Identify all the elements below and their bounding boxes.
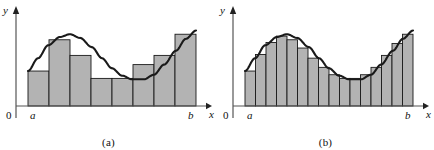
lower-bound-label-a: a: [30, 109, 36, 121]
riemann-rectangle: [133, 65, 154, 106]
upper-bound-label-b: b: [405, 109, 411, 121]
y-axis-label: y: [219, 4, 225, 16]
riemann-rectangle: [49, 40, 70, 106]
origin-label: 0: [6, 109, 12, 121]
x-axis-label: x: [208, 108, 214, 120]
y-axis-label: y: [2, 4, 8, 16]
riemann-rectangle: [340, 78, 351, 106]
riemann-rectangle: [298, 48, 309, 106]
lower-bound-label-a: a: [247, 109, 253, 121]
riemann-rectangle: [350, 78, 361, 106]
riemann-rectangle: [112, 78, 133, 106]
riemann-rectangle: [329, 75, 340, 106]
rectangles-group: [245, 34, 413, 106]
origin-label: 0: [223, 109, 229, 121]
riemann-rectangle: [319, 67, 330, 106]
riemann-rectangle: [91, 78, 112, 106]
panel-b: yx0ab (b): [217, 0, 434, 150]
y-axis-arrowhead-icon: [13, 6, 19, 14]
riemann-rectangle: [245, 71, 256, 106]
riemann-rectangle: [392, 43, 403, 106]
x-axis-label: x: [425, 108, 431, 120]
riemann-rectangle: [403, 34, 414, 106]
riemann-sum-plot-a: yx0ab: [0, 0, 217, 130]
riemann-rectangle: [308, 58, 319, 106]
riemann-rectangle: [154, 55, 175, 106]
riemann-rectangle: [256, 54, 267, 106]
figure-root: yx0ab (a) yx0ab (b): [0, 0, 434, 150]
rectangles-group: [28, 34, 196, 106]
panel-a-caption: (a): [0, 136, 217, 148]
y-axis-arrowhead-icon: [230, 6, 236, 14]
panel-a: yx0ab (a): [0, 0, 217, 150]
riemann-rectangle: [277, 36, 288, 106]
riemann-rectangle: [175, 34, 196, 106]
riemann-rectangle: [28, 71, 49, 106]
riemann-sum-plot-b: yx0ab: [217, 0, 434, 130]
riemann-rectangle: [70, 55, 91, 106]
upper-bound-label-b: b: [188, 109, 194, 121]
riemann-rectangle: [287, 40, 298, 106]
panel-b-caption: (b): [217, 136, 434, 148]
riemann-rectangle: [266, 43, 277, 106]
